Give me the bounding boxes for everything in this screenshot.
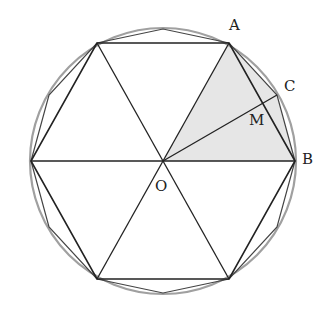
diagram: A C M B O [0,0,336,328]
label-O: O [155,179,167,194]
geometry-figure [0,0,336,328]
label-C: C [284,79,295,94]
label-A: A [229,18,240,33]
label-B: B [302,152,313,167]
shaded-region [163,43,295,161]
label-M: M [249,113,264,128]
